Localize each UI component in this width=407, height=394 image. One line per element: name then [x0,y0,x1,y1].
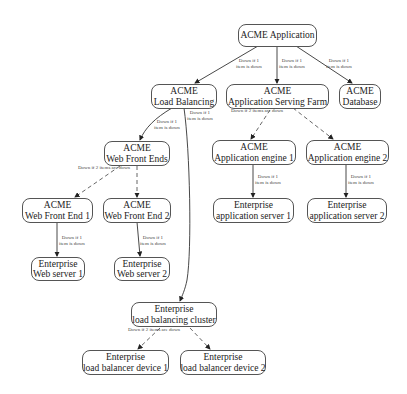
node-label-line2: load balancer device 1 [83,363,168,374]
edge-label-line2: item is down [348,180,374,185]
node-acme-application: ACME Application [238,24,317,47]
node-label-line1: Enterprise [38,259,77,270]
node-web-front-ends: ACME Web Front Ends [104,141,170,166]
node-application-server-1: Enterprise application server 1 [213,198,294,223]
edge-label-line2: item is down [187,116,213,121]
edge-label-line2: item is down [140,241,166,246]
node-label-line2: application server 1 [216,211,291,222]
edge-label-line2: item is down [326,64,352,69]
edge-label-line1: Down if 1 [258,174,278,179]
edge-wfe-wfe1 [75,166,120,197]
edge-label-line1: Down if 1 [239,58,259,63]
node-label-line1: Enterprise [234,200,273,211]
node-application-serving-farm: ACME Application Serving Farm [226,84,329,109]
edge-farm-ae1 [251,110,270,139]
edge-label-line1: Down if 1 [143,235,163,240]
edge-lb-lbc [180,108,190,301]
node-label-line2: load balancer device 2 [180,363,265,374]
node-application-engine-2: ACME Application engine 2 [306,140,389,165]
node-load-balancing: ACME Load Balancing [151,84,217,109]
node-web-front-end-2: ACME Web Front End 2 [103,198,171,223]
edge-label-lb-lbc: Down if 1 item is down [187,110,213,121]
edge-label-wfe2-ws2: Down if 1 item is down [140,235,166,246]
edge-label-app-farm: Down if 1 item is down [279,58,305,69]
edge-label-line2: item is down [154,125,180,130]
edge-label-ae1-as1: Down if 1 item is down [255,174,281,185]
node-web-server-2: Enterprise Web server 2 [114,257,170,281]
node-label-line1: ACME [264,86,291,97]
node-web-server-1: Enterprise Web server 1 [31,257,85,281]
node-application-server-2: Enterprise application server 2 [307,198,387,223]
node-label-line1: ACME [334,142,361,153]
node-label-line2: Database [343,97,378,108]
edge-label-line2: item is down [279,64,305,69]
edge-lbc-lbd2 [190,328,210,349]
node-application-engine-1: ACME Application engine 1 [212,140,296,165]
node-load-balancer-device-2: Enterprise load balancer device 2 [180,350,266,375]
edge-label-line1: Down if 2 items are down [128,327,180,332]
node-web-front-end-1: ACME Web Front End 1 [22,198,93,223]
node-label-line1: Enterprise [327,200,366,211]
node-label-line2: Web server 2 [117,269,167,280]
node-label-line2: load balancing cluster [132,315,215,326]
edge-label-line2: item is down [59,241,85,246]
edge-label-lb-wfe: Down if 1 item is down [154,119,180,130]
edge-farm-ae2 [293,108,333,139]
node-label-line2: Load Balancing [154,97,214,108]
edge-label-line1: Down if 2 items are down [231,108,283,113]
node-label-line1: ACME [123,200,150,211]
node-label-line1: ACME [44,200,71,211]
node-label-line2: Application engine 1 [214,153,294,164]
edge-label-line1: Down if 1 [62,235,82,240]
edge-label-lbc-group: Down if 2 items are down [128,327,180,333]
edge-label-wfe-group: Down if 2 items are down [78,165,130,171]
edge-label-line1: Down if 1 [282,58,302,63]
node-label-line2: Application engine 2 [308,153,388,164]
node-label-line1: Enterprise [203,352,242,363]
edge-label-line1: Down if 1 [190,110,210,115]
node-label-line2: Web Front End 1 [25,211,90,222]
node-label-line1: Enterprise [106,352,145,363]
edge-label-line1: Down if 1 [329,58,349,63]
node-label-line2: Web Front End 2 [105,211,170,222]
node-database: ACME Database [339,84,381,109]
node-label-line2: Web server 1 [33,269,83,280]
edge-label-line2: item is down [236,64,262,69]
node-label-line1: Enterprise [122,259,161,270]
edge-label-app-lb: Down if 1 item is down [236,58,262,69]
node-label-line1: ACME [240,142,267,153]
edge-label-wfe1-ws1: Down if 1 item is down [59,235,85,246]
node-load-balancing-cluster: Enterprise load balancing cluster [131,302,217,327]
node-label: ACME Application [240,30,314,41]
node-load-balancer-device-1: Enterprise load balancer device 1 [82,350,169,375]
node-label-line2: Web Front Ends [106,154,168,165]
edge-label-ae2-as2: Down if 1 item is down [348,174,374,185]
edge-label-app-db: Down if 1 item is down [326,58,352,69]
edge-label-farm-group: Down if 2 items are down [231,108,283,114]
edge-label-line1: Down if 1 [351,174,371,179]
node-label-line1: ACME [170,86,197,97]
node-label-line2: application server 2 [310,211,385,222]
node-label-line1: ACME [346,86,373,97]
node-label-line1: ACME [123,143,150,154]
node-label-line1: Enterprise [154,304,193,315]
edge-label-line1: Down if 2 items are down [78,165,130,170]
node-label-line2: Application Serving Farm [228,97,327,108]
edge-label-line2: item is down [255,180,281,185]
edge-label-line1: Down if 1 [157,119,177,124]
